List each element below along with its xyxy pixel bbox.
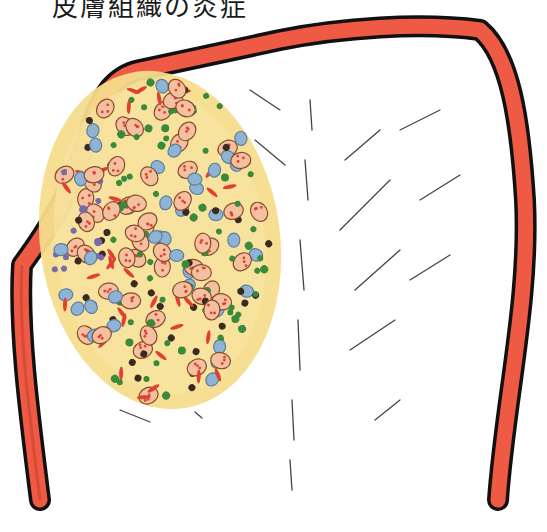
cell-granule [188,109,191,112]
cell-granule [199,298,202,301]
cell-granule [113,214,116,217]
cell-granule [177,83,180,86]
cell-granule [205,242,208,245]
cell-granule [93,183,96,186]
cell-granule [131,300,134,303]
cell-granule [203,294,206,297]
cell-granule [125,259,128,262]
cell-granule [196,364,199,367]
cell-granule [144,330,147,333]
cell-granule [243,260,246,263]
cell-granule [114,162,117,165]
cell-granule [223,302,226,305]
cell-granule [145,173,148,176]
cell-granule [144,345,147,348]
cell-granule [203,267,206,270]
cell-granule [106,103,109,106]
cell-granule [150,224,153,227]
cell [170,249,184,261]
cell-granule [158,109,161,112]
cell-granule [108,207,111,210]
cell-granule [61,178,64,181]
cell-granule [213,312,216,315]
cell-granule [207,304,210,307]
cell [187,173,202,186]
cell-granule [149,170,152,173]
cell-granule [139,344,142,347]
cell-granule [221,362,224,365]
histology-illustration [0,0,547,532]
cell-granule [143,335,146,338]
cell-granule [145,332,148,335]
cell-granule [163,111,166,114]
cell-granule [134,124,137,127]
cell-granule [183,169,186,172]
cell-granule [132,296,135,299]
cell-granule [161,105,164,108]
cell-granule [71,250,74,253]
cell-granule [99,334,102,337]
cell-granule [163,253,166,256]
cell-granule [187,128,190,131]
cell-granule [185,130,188,133]
cell-granule [81,197,84,200]
cell-granule [210,312,213,315]
cell-granule [93,171,96,174]
cell-granule [164,262,167,265]
cell-granule [93,210,96,213]
cell-granule [147,223,150,226]
cell-granule [101,111,104,114]
cell-granule [134,235,137,238]
cell-granule [157,319,160,322]
cell-granule [175,89,178,92]
cell-granule [139,346,142,349]
cell-granule [190,166,193,169]
cell-granule [196,270,199,273]
cell-granule [176,140,179,143]
cell-granule [260,206,263,209]
cell-granule [198,367,201,370]
cell-granule [133,206,136,209]
cell-granule [146,176,149,179]
cell-granule [106,110,109,113]
cell-granule [130,234,133,237]
cell-granule [82,333,85,336]
cell-granule [181,200,184,203]
cell [213,339,226,354]
cell-granule [107,290,110,293]
cell-granule [160,255,163,258]
cell-granule [155,313,158,316]
cell-granule [237,160,240,163]
cell-granule [178,196,181,199]
cell-granule [224,299,227,302]
cell-granule [163,249,166,252]
cell-granule [85,225,88,228]
cell-granule [231,214,234,217]
cell-granule [117,170,120,173]
cell-granule [137,203,140,206]
cell-granule [75,245,78,248]
cell-granule [242,157,245,160]
cell-granule [245,264,248,267]
cell-granule [223,359,226,362]
cell-granule [122,121,125,124]
cell-granule [185,290,188,293]
cell-granule [88,194,91,197]
cell [228,233,240,247]
cell-granule [112,169,115,172]
cell-granule [199,241,202,244]
cell-granule [103,290,106,293]
cell-granule [140,242,143,245]
cell-granule [125,254,128,257]
cell-granule [194,363,197,366]
cell-granule [243,257,246,260]
cell-granule [181,105,184,108]
cell-granule [183,285,186,288]
cell-granule [128,260,131,263]
cell-granule [161,269,164,272]
cell-granule [144,399,147,402]
cell [141,104,147,110]
cell-granule [254,208,257,211]
cell-granule [223,356,226,359]
cell [191,264,211,280]
